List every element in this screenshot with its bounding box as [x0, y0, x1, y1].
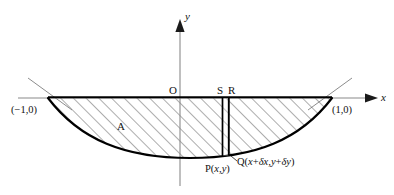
strip-label-S: S: [217, 84, 223, 96]
figure-container: x y O (−1,0) (1,0) A S R P(x,y) Q(x+δx,y…: [0, 0, 394, 195]
origin-label: O: [169, 84, 177, 96]
region-label-A: A: [117, 120, 125, 132]
strip-label-R: R: [228, 84, 236, 96]
y-axis-label: y: [184, 10, 190, 22]
point-label-Q: Q(x+δx,y+δy): [237, 156, 295, 168]
right-intercept-label: (1,0): [332, 104, 353, 116]
left-intercept-label: (−1,0): [11, 104, 38, 116]
point-label-P: P(x,y): [205, 163, 230, 175]
x-axis-label: x: [380, 91, 386, 103]
parabola-area-diagram: x y O (−1,0) (1,0) A S R P(x,y) Q(x+δx,y…: [0, 0, 394, 195]
